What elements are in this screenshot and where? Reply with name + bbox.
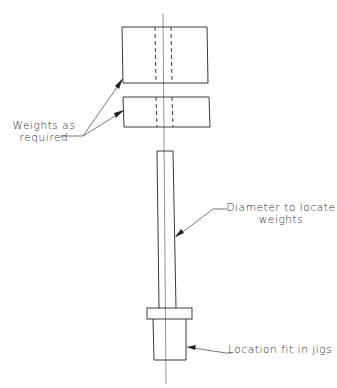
collar [147,308,192,319]
second-weight-bore-right [172,97,173,127]
top-weight [122,27,208,83]
second-weight-bore-left [156,97,157,127]
diameter-leader [175,209,227,237]
arrow-icon [187,345,196,350]
diameter-label-line1: Diameter to locate [226,201,336,213]
location-label-line1: Location fit in jigs [228,343,336,355]
second-weight [123,97,210,127]
weights-label: Weights as required [8,119,80,143]
weights-label-line1: Weights as [8,119,80,131]
arrow-icon [175,229,184,237]
location-spigot [153,319,186,360]
location-leader [187,345,231,353]
top-weight-bore-right [171,27,172,83]
diameter-label: Diameter to locate weights [226,201,336,225]
top-weight-bore-left [155,27,156,83]
shaft [157,151,176,308]
arrow-icon [114,110,124,118]
arrow-icon [115,78,123,89]
location-label: Location fit in jigs [228,343,336,355]
centerline [163,14,166,384]
weights-label-line2: required [8,131,80,143]
diameter-label-line2: weights [226,213,336,225]
pin-diagram [0,0,337,388]
